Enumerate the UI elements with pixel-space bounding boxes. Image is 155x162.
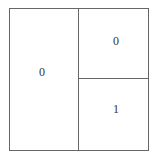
outer-frame [9, 8, 149, 151]
region-bottom-right-label: 1 [113, 102, 119, 117]
vertical-divider [78, 8, 79, 151]
region-left-label: 0 [39, 65, 45, 80]
region-top-right-label: 0 [113, 34, 119, 49]
horizontal-divider [78, 78, 149, 79]
